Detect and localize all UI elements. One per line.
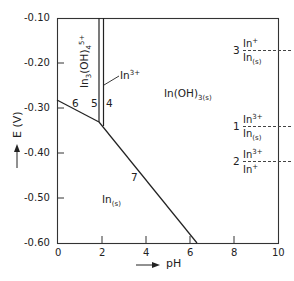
x-axis-ticks	[102, 236, 234, 243]
y-axis-arrow-icon	[14, 144, 20, 168]
reference-3-couple: In+ In(s)	[243, 37, 291, 66]
x-axis-arrow-icon	[136, 262, 160, 268]
reference-2-couple: In3+ In+	[243, 148, 291, 175]
reference-1-couple: In3+ In(s)	[243, 113, 291, 142]
region-label-in3oh4: In3(OH)45+	[78, 35, 93, 88]
subscript: 3	[85, 74, 93, 78]
species-text: In	[78, 78, 90, 88]
reference-1-number: 1	[233, 121, 240, 131]
superscript: 5+	[78, 35, 86, 45]
superscript: 3+	[130, 69, 140, 77]
line-4-label: 4	[106, 98, 113, 108]
species-text: In	[243, 128, 252, 139]
species-text: In	[243, 114, 252, 125]
species-text: In	[102, 193, 112, 205]
species-text: (OH)	[78, 49, 90, 73]
y-tick-label: -0.60	[24, 238, 50, 248]
subscript: 3(s)	[198, 94, 212, 102]
species-text: In	[243, 164, 252, 175]
y-axis-title: E (V)	[11, 111, 24, 138]
species-text: In	[120, 69, 130, 81]
x-axis-title: pH	[166, 259, 181, 269]
species-text: In(OH)	[164, 87, 198, 99]
x-tick-label: 2	[99, 248, 105, 258]
line-6-label: 6	[72, 98, 79, 108]
superscript: 3+	[252, 113, 262, 121]
subscript: (s)	[252, 58, 261, 66]
species-text: In	[243, 149, 252, 160]
x-tick-label: 0	[55, 248, 61, 258]
y-tick-label: -0.50	[24, 193, 50, 203]
y-tick-label: -0.20	[24, 58, 50, 68]
y-tick-label: -0.10	[24, 13, 50, 23]
y-tick-label: -0.40	[24, 148, 50, 158]
subscript: (s)	[252, 134, 261, 142]
species-text: In	[243, 38, 252, 49]
subscript: (s)	[112, 200, 121, 208]
y-tick-label: -0.30	[24, 103, 50, 113]
reference-2-number: 2	[233, 156, 240, 166]
line-7-label: 7	[131, 172, 138, 182]
region-label-inoh3: In(OH)3(s)	[164, 88, 212, 103]
x-tick-label: 4	[143, 248, 149, 258]
x-tick-label: 6	[187, 248, 193, 258]
reference-3-number: 3	[233, 45, 240, 55]
species-text: In	[243, 52, 252, 63]
region-label-ins: In(s)	[102, 194, 121, 209]
line-5-label: 5	[91, 98, 98, 108]
superscript: +	[252, 163, 258, 171]
superscript: 3+	[252, 148, 262, 156]
superscript: +	[252, 37, 258, 45]
x-tick-label: 10	[272, 248, 285, 258]
in3plus-leader-line	[104, 76, 119, 85]
subscript: 4	[85, 45, 93, 49]
region-label-in3plus: In3+	[120, 68, 140, 80]
line-7	[99, 122, 197, 243]
x-tick-label: 8	[231, 248, 237, 258]
